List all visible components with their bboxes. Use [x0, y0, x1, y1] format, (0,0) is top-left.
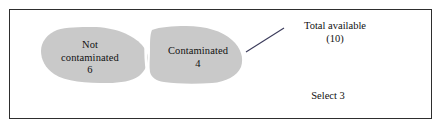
annotation-total-available-line1: Total available [304, 20, 366, 31]
region-count-not-contaminated: 6 [44, 64, 136, 77]
region-label-not-contaminated-line1: Not [82, 39, 98, 50]
annotation-total-available: Total available (10) [285, 20, 385, 45]
region-count-contaminated: 4 [153, 58, 243, 71]
region-label-not-contaminated: Not contaminated 6 [44, 39, 136, 77]
region-label-not-contaminated-line2: contaminated [61, 52, 119, 63]
region-label-contaminated: Contaminated 4 [153, 45, 243, 70]
annotation-select: Select 3 [288, 90, 368, 103]
annotation-total-available-line2: (10) [285, 33, 385, 46]
region-label-contaminated-line1: Contaminated [168, 45, 228, 56]
figure-container: Not contaminated 6 Contaminated 4 Total … [0, 0, 442, 129]
